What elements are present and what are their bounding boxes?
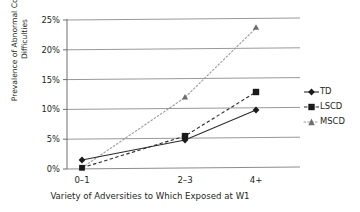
legend-marker-triangle-icon — [303, 116, 320, 128]
chart-container: Prevalence of Abnormal ConductDifficulti… — [0, 0, 360, 212]
x-axis-title: Variety of Adversities to Which Exposed … — [0, 191, 300, 201]
legend-marker-square-icon — [303, 101, 320, 113]
legend-item-td: TD — [303, 84, 360, 99]
legend-item-lscd: LSCD — [303, 99, 360, 114]
x-tick-2-3: 2–3 — [177, 176, 192, 185]
x-tick-0-1: 0–1 — [74, 176, 89, 185]
x-tick-4plus: 4+ — [250, 176, 263, 185]
legend-label-mscd: MSCD — [320, 117, 345, 125]
legend-marker-diamond-icon — [303, 86, 320, 98]
legend-label-lscd: LSCD — [320, 102, 342, 110]
legend-item-mscd: MSCD — [303, 114, 360, 129]
legend-label-td: TD — [320, 87, 332, 95]
chart-legend: TD LSCD MSCD — [303, 84, 360, 129]
